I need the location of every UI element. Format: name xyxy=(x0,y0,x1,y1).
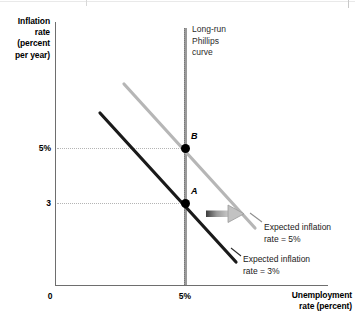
expected-inflation-5pct-label: Expected inflation rate = 5% xyxy=(264,222,331,245)
expected-inflation-3pct-label: Expected inflation rate = 3% xyxy=(243,254,310,277)
phillips-curve-figure: Inflation rate (percent per year) Unempl… xyxy=(0,0,355,326)
expected-inflation-3pct-line-2: rate = 3% xyxy=(243,266,310,278)
equilibrium-point-a-label: A xyxy=(191,186,198,196)
expected-inflation-3pct-line-1: Expected inflation xyxy=(243,254,310,266)
curves-overlay xyxy=(0,0,355,326)
expected-inflation-5pct-line-2: rate = 5% xyxy=(264,234,331,246)
short-run-phillips-curve-low xyxy=(100,113,236,262)
short-run-phillips-curve-high xyxy=(124,84,255,228)
leader-line-high-curve-label xyxy=(250,213,262,222)
leader-line-low-curve-label xyxy=(231,248,241,256)
equilibrium-point-b-marker xyxy=(181,144,190,153)
equilibrium-point-a-marker xyxy=(181,199,190,208)
equilibrium-point-b-label: B xyxy=(191,131,198,141)
expected-inflation-5pct-line-1: Expected inflation xyxy=(264,222,331,234)
